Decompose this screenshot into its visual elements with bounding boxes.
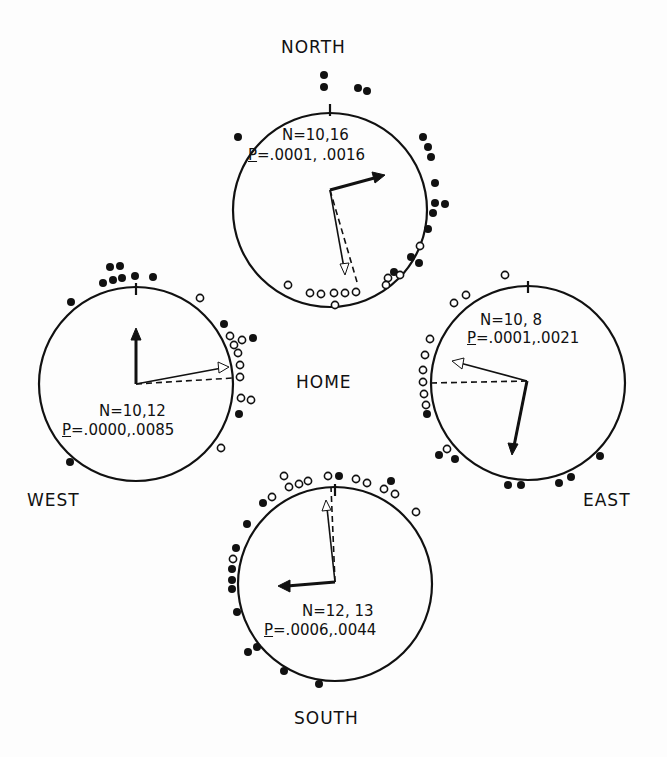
panel-south-label: SOUTH <box>294 708 359 728</box>
west-p: P=.0000,.0085 <box>62 421 174 439</box>
east-n: N=10, 8 <box>480 311 542 329</box>
p-values: =.0000,.0085 <box>71 421 174 439</box>
figure: NORTH HOME WEST EAST SOUTH N=10,16 P=.00… <box>0 0 667 757</box>
p-values: =.0001,.0021 <box>476 329 579 347</box>
panel-west-label: WEST <box>27 490 80 510</box>
panel-east-label: EAST <box>583 490 631 510</box>
west-n: N=10,12 <box>99 402 166 420</box>
p-values: =.0001, .0016 <box>257 146 365 164</box>
south-p: P=.0006,.0044 <box>264 621 376 639</box>
south-n: N=12, 13 <box>302 602 374 620</box>
p-label: P <box>62 421 71 439</box>
p-label: P <box>248 146 257 164</box>
p-values: =.0006,.0044 <box>273 621 376 639</box>
east-p: P=.0001,.0021 <box>467 329 579 347</box>
north-n: N=10,16 <box>282 126 349 144</box>
panel-north-label: NORTH <box>281 37 346 57</box>
p-label: P <box>467 329 476 347</box>
center-label: HOME <box>296 372 352 392</box>
north-p: P=.0001, .0016 <box>248 146 365 164</box>
p-label: P <box>264 621 273 639</box>
